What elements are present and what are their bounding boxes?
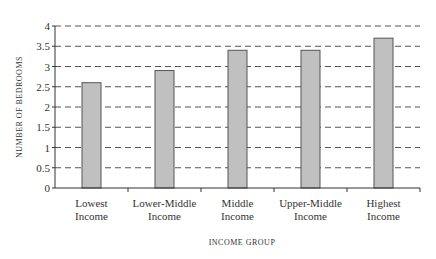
x-axis-category-labels: LowestIncomeLower-MiddleIncomeMiddleInco… <box>75 197 401 222</box>
y-tick-label: 1 <box>45 142 51 154</box>
x-category-label: Income <box>294 210 327 222</box>
x-axis-label: INCOME GROUP <box>209 238 276 247</box>
x-category-label: Highest <box>366 197 400 209</box>
x-category-label: Income <box>148 210 181 222</box>
bar <box>82 83 101 188</box>
y-tick-label: 1.5 <box>36 121 50 133</box>
bar <box>301 50 320 188</box>
bars <box>82 38 393 188</box>
x-category-label: Income <box>75 210 108 222</box>
x-category-label: Upper-Middle <box>279 197 342 209</box>
x-category-label: Lower-Middle <box>133 197 197 209</box>
x-category-label: Income <box>221 210 254 222</box>
y-tick-label: 0 <box>45 182 51 194</box>
y-tick-label: 2.5 <box>36 81 50 93</box>
bar-chart: 00.511.522.533.54 LowestIncomeLower-Midd… <box>0 0 436 259</box>
bar <box>155 71 174 188</box>
y-tick-label: 3.5 <box>36 40 50 52</box>
bar <box>228 50 247 188</box>
y-axis-ticks: 00.511.522.533.54 <box>36 20 55 194</box>
x-category-label: Middle <box>222 197 254 209</box>
y-tick-label: 4 <box>45 20 51 32</box>
y-tick-label: 2 <box>45 101 51 113</box>
x-category-label: Income <box>367 210 400 222</box>
y-tick-label: 3 <box>45 61 51 73</box>
y-axis-label: NUMBER OF BEDROOMS <box>15 56 24 158</box>
x-category-label: Lowest <box>75 197 107 209</box>
y-tick-label: 0.5 <box>36 162 50 174</box>
bar <box>374 38 393 188</box>
